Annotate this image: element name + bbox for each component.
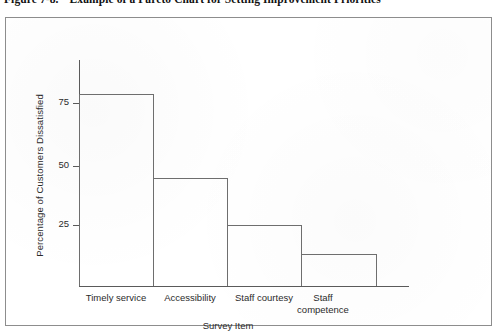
bar-staff-courtesy (227, 225, 302, 286)
bar-staff-competence (301, 254, 377, 286)
x-category-label-3: Staff competence (292, 292, 354, 315)
y-axis-title-text: Percentage of Customers Dissatisfied (34, 94, 45, 257)
y-axis-title: Percentage of Customers Dissatisfied (32, 80, 46, 270)
figure-frame: Percentage of Customers Dissatisfied 75 … (5, 17, 492, 326)
x-axis-line (79, 286, 409, 287)
y-tick-label-50: 50 (58, 159, 69, 170)
y-tick-label-25: 25 (58, 218, 69, 229)
y-tick-label-75: 75 (58, 96, 69, 107)
plot-area: 75 50 25 (79, 60, 377, 286)
figure-number: Figure 7-8. (4, 0, 59, 5)
figure-caption: Figure 7-8.Example of a Pareto Chart for… (0, 0, 498, 11)
bar-timely-service (79, 94, 154, 286)
x-axis-title: Survey Item (79, 320, 377, 331)
bar-accessibility (153, 178, 228, 286)
figure-caption-text: Example of a Pareto Chart for Setting Im… (70, 0, 381, 5)
